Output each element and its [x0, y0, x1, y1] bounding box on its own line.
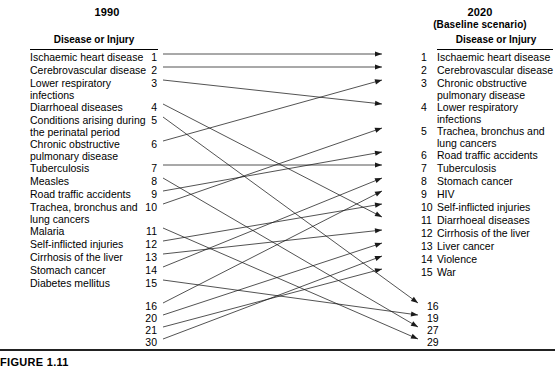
- connector-line: [163, 80, 382, 141]
- connector-arrowhead-icon: [375, 211, 384, 219]
- connector-line: [163, 269, 382, 327]
- connector-line: [163, 280, 418, 315]
- connector-arrowhead-icon: [375, 149, 383, 155]
- connector-line: [163, 191, 382, 303]
- connector-arrowhead-icon: [375, 201, 383, 207]
- connector-arrowhead-icon: [375, 266, 383, 273]
- connector-lines: [0, 0, 560, 375]
- figure-slope-chart: 1990 2020 (Baseline scenario) Disease or…: [0, 0, 560, 375]
- connector-arrowhead-icon: [375, 126, 383, 133]
- connector-arrowhead-icon: [375, 189, 384, 197]
- connector-arrowhead-icon: [375, 77, 383, 84]
- connector-arrowhead-icon: [375, 227, 383, 233]
- connector-arrowhead-icon: [375, 64, 382, 69]
- connector-line: [163, 117, 418, 303]
- connector-arrowhead-icon: [411, 321, 420, 329]
- connector-line: [163, 128, 382, 204]
- connector-line: [163, 80, 382, 104]
- connector-arrowhead-icon: [375, 241, 383, 248]
- figure-caption: FIGURE 1.11: [0, 356, 69, 368]
- connector-arrowhead-icon: [375, 162, 382, 167]
- connector-arrowhead-icon: [411, 334, 419, 342]
- connector-line: [163, 178, 418, 327]
- connector-line: [163, 256, 382, 339]
- connector-arrowhead-icon: [375, 254, 383, 261]
- caption-divider: [0, 349, 555, 351]
- connector-arrowhead-icon: [375, 51, 382, 56]
- connector-arrowhead-icon: [375, 176, 383, 183]
- connector-arrowhead-icon: [411, 297, 420, 305]
- connector-arrowhead-icon: [375, 101, 383, 107]
- connector-line: [163, 104, 382, 217]
- connector-line: [163, 152, 382, 191]
